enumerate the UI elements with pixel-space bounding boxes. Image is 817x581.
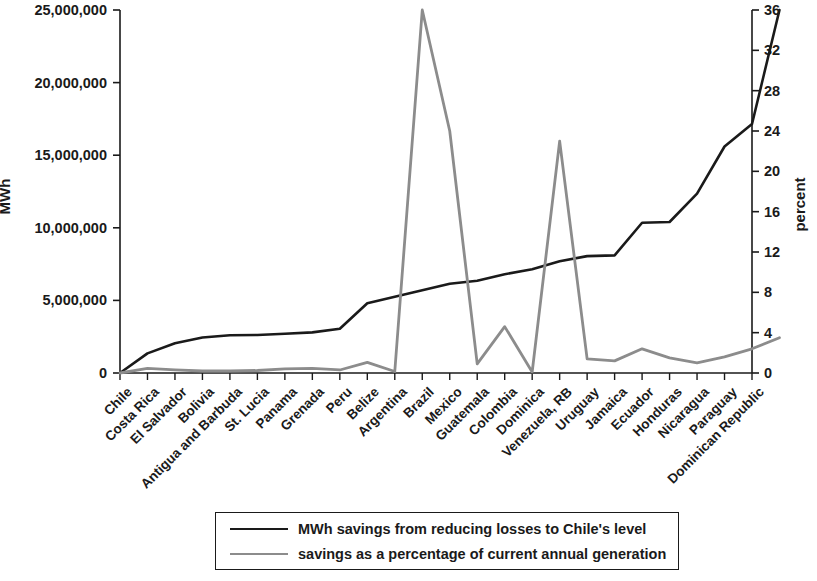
legend-label-percent: savings as a percentage of current annua… bbox=[298, 546, 666, 562]
chart-container: MWh percent 05,000,00010,000,00015,000,0… bbox=[0, 0, 817, 581]
legend-swatch-mwh bbox=[230, 528, 288, 530]
legend-swatch-percent bbox=[230, 553, 288, 555]
plot-area bbox=[0, 0, 817, 581]
legend-entry-mwh: MWh savings from reducing losses to Chil… bbox=[216, 516, 678, 542]
series-lines bbox=[120, 10, 779, 373]
legend-entry-percent: savings as a percentage of current annua… bbox=[216, 541, 678, 567]
chart-legend: MWh savings from reducing losses to Chil… bbox=[215, 512, 679, 570]
legend-label-mwh: MWh savings from reducing losses to Chil… bbox=[298, 521, 646, 537]
